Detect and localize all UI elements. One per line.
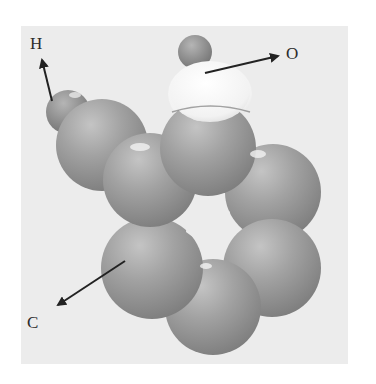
carbon-label: C xyxy=(27,313,38,333)
carbon-ring xyxy=(56,92,321,355)
molecule-model xyxy=(0,0,376,384)
oxygen-label: O xyxy=(286,44,298,64)
hydrogen-arrow xyxy=(42,60,52,101)
hydrogen-label: H xyxy=(30,34,42,54)
